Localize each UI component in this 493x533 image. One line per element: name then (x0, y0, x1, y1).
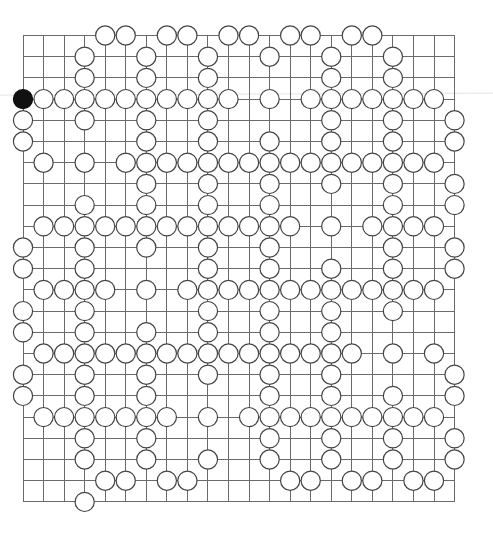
white-stone[interactable] (75, 386, 94, 405)
white-stone[interactable] (198, 68, 217, 87)
white-stone[interactable] (445, 174, 464, 193)
white-stone[interactable] (383, 302, 402, 321)
white-stone[interactable] (198, 238, 217, 257)
white-stone[interactable] (198, 196, 217, 215)
white-stone[interactable] (301, 408, 320, 427)
white-stone[interactable] (75, 47, 94, 66)
white-stone[interactable] (322, 90, 341, 109)
white-stone[interactable] (260, 302, 279, 321)
white-stone[interactable] (55, 280, 74, 299)
white-stone[interactable] (13, 132, 32, 151)
white-stone[interactable] (383, 68, 402, 87)
white-stone[interactable] (363, 26, 382, 45)
white-stone[interactable] (260, 196, 279, 215)
white-stone[interactable] (322, 111, 341, 130)
white-stone[interactable] (96, 26, 115, 45)
white-stone[interactable] (178, 471, 197, 490)
white-stone[interactable] (116, 26, 135, 45)
white-stone[interactable] (445, 386, 464, 405)
white-stone[interactable] (342, 280, 361, 299)
white-stone[interactable] (383, 217, 402, 236)
white-stone[interactable] (55, 217, 74, 236)
white-stone[interactable] (116, 217, 135, 236)
white-stone[interactable] (301, 344, 320, 363)
white-stone[interactable] (281, 26, 300, 45)
white-stone[interactable] (260, 386, 279, 405)
white-stone[interactable] (198, 47, 217, 66)
white-stone[interactable] (178, 90, 197, 109)
white-stone[interactable] (178, 217, 197, 236)
white-stone[interactable] (404, 408, 423, 427)
white-stone[interactable] (55, 344, 74, 363)
white-stone[interactable] (198, 344, 217, 363)
white-stone[interactable] (137, 344, 156, 363)
white-stone[interactable] (383, 429, 402, 448)
white-stone[interactable] (75, 68, 94, 87)
white-stone[interactable] (13, 386, 32, 405)
white-stone[interactable] (13, 238, 32, 257)
white-stone[interactable] (322, 280, 341, 299)
white-stone[interactable] (363, 408, 382, 427)
white-stone[interactable] (198, 323, 217, 342)
white-stone[interactable] (75, 302, 94, 321)
white-stone[interactable] (363, 217, 382, 236)
white-stone[interactable] (137, 47, 156, 66)
white-stone[interactable] (75, 90, 94, 109)
white-stone[interactable] (198, 280, 217, 299)
white-stone[interactable] (137, 280, 156, 299)
white-stone[interactable] (363, 471, 382, 490)
white-stone[interactable] (260, 365, 279, 384)
black-stone[interactable] (13, 90, 32, 109)
white-stone[interactable] (116, 153, 135, 172)
white-stone[interactable] (116, 408, 135, 427)
white-stone[interactable] (157, 408, 176, 427)
white-stone[interactable] (260, 47, 279, 66)
white-stone[interactable] (424, 471, 443, 490)
white-stone[interactable] (322, 450, 341, 469)
white-stone[interactable] (96, 408, 115, 427)
white-stone[interactable] (383, 132, 402, 151)
white-stone[interactable] (342, 153, 361, 172)
white-stone[interactable] (383, 408, 402, 427)
white-stone[interactable] (75, 450, 94, 469)
white-stone[interactable] (322, 132, 341, 151)
white-stone[interactable] (137, 450, 156, 469)
white-stone[interactable] (157, 153, 176, 172)
white-stone[interactable] (96, 344, 115, 363)
white-stone[interactable] (404, 217, 423, 236)
white-stone[interactable] (13, 365, 32, 384)
white-stone[interactable] (13, 323, 32, 342)
white-stone[interactable] (260, 344, 279, 363)
white-stone[interactable] (383, 90, 402, 109)
white-stone[interactable] (260, 217, 279, 236)
white-stone[interactable] (260, 259, 279, 278)
white-stone[interactable] (116, 90, 135, 109)
white-stone[interactable] (260, 429, 279, 448)
white-stone[interactable] (383, 280, 402, 299)
white-stone[interactable] (260, 90, 279, 109)
white-stone[interactable] (178, 344, 197, 363)
white-stone[interactable] (239, 153, 258, 172)
white-stone[interactable] (383, 450, 402, 469)
white-stone[interactable] (322, 344, 341, 363)
white-stone[interactable] (13, 259, 32, 278)
white-stone[interactable] (424, 408, 443, 427)
white-stone[interactable] (239, 26, 258, 45)
white-stone[interactable] (198, 153, 217, 172)
white-stone[interactable] (219, 26, 238, 45)
white-stone[interactable] (178, 26, 197, 45)
white-stone[interactable] (383, 344, 402, 363)
white-stone[interactable] (239, 280, 258, 299)
white-stone[interactable] (198, 408, 217, 427)
white-stone[interactable] (301, 280, 320, 299)
white-stone[interactable] (137, 217, 156, 236)
white-stone[interactable] (219, 280, 238, 299)
white-stone[interactable] (34, 90, 53, 109)
white-stone[interactable] (281, 344, 300, 363)
white-stone[interactable] (75, 238, 94, 257)
white-stone[interactable] (137, 238, 156, 257)
white-stone[interactable] (281, 153, 300, 172)
white-stone[interactable] (445, 196, 464, 215)
white-stone[interactable] (322, 153, 341, 172)
white-stone[interactable] (322, 386, 341, 405)
